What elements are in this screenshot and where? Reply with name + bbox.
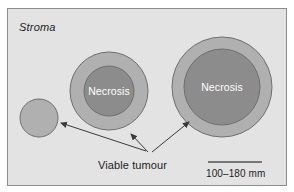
- stroma-label: Stroma: [19, 21, 56, 33]
- arrow-to-large-nodule: [152, 122, 189, 152]
- necrosis-label-medium-nodule: Necrosis: [85, 85, 133, 97]
- scale-bar-label: 100–180 mm: [206, 168, 265, 179]
- viable-tumour-label: Viable tumour: [98, 159, 167, 171]
- necrosis-label-large-nodule: Necrosis: [197, 81, 247, 93]
- figure-container: Stroma Necrosis Necrosis Viable tumour 1…: [0, 0, 294, 192]
- small-nodule: [20, 99, 58, 137]
- small-nodule-viable-tumour-ring: [20, 99, 58, 137]
